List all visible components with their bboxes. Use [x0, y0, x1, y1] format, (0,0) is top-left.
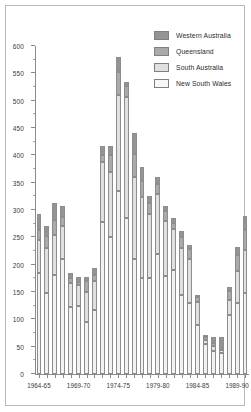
y-axis-minor-tick [33, 59, 35, 60]
y-axis-tick-label: 200 [13, 261, 24, 268]
bar-stack[interactable] [108, 146, 113, 375]
y-axis-minor-tick [33, 168, 35, 169]
bar-stack[interactable] [203, 335, 208, 374]
bar-segment [132, 177, 137, 259]
y-axis-minor-tick [33, 86, 35, 87]
y-axis-major-tick [31, 236, 35, 237]
x-axis-tick [79, 375, 80, 378]
y-axis-major-tick [31, 373, 35, 374]
bar-segment [227, 300, 232, 315]
bar-segment [116, 95, 121, 191]
bar-segment [100, 162, 105, 222]
chart-frame: Western AustraliaQueenslandSouth Austral… [5, 5, 245, 406]
bar-segment [195, 302, 200, 325]
legend-item-label: Western Australia [176, 32, 231, 39]
bar-segment [147, 278, 152, 374]
bar-segment [100, 155, 105, 162]
bar-segment [227, 287, 232, 291]
x-axis-tick-label: 1974-75 [106, 382, 129, 389]
bar-stack[interactable] [84, 277, 89, 374]
bar-segment [147, 214, 152, 279]
bar-segment [60, 226, 65, 259]
x-axis-tick [126, 375, 127, 378]
bar-stack[interactable] [140, 167, 145, 374]
bar-segment [155, 184, 160, 194]
y-axis-major-tick [31, 264, 35, 265]
bar-segment [187, 249, 192, 259]
bar-segment [84, 322, 89, 374]
bar-segment [171, 223, 176, 230]
x-axis-tick-label: 1979-80 [146, 382, 169, 389]
y-axis-minor-tick [33, 359, 35, 360]
bar-stack[interactable] [155, 177, 160, 374]
x-axis-tick [237, 375, 238, 378]
bar-segment [108, 172, 113, 238]
bar-segment [227, 315, 232, 374]
bar-stack[interactable] [60, 206, 65, 374]
bar-segment [147, 196, 152, 203]
bar-stack[interactable] [211, 337, 216, 374]
bar-segment [211, 346, 216, 351]
y-axis-tick-label: 400 [13, 152, 24, 159]
y-axis-tick-label: 450 [13, 125, 24, 132]
y-axis-tick-label: 500 [13, 97, 24, 104]
bar-stack[interactable] [52, 203, 57, 374]
bar-segment [76, 277, 81, 282]
bar-stack[interactable] [68, 273, 73, 374]
bar-segment [84, 292, 89, 322]
bar-stack[interactable] [171, 218, 176, 374]
bar-segment [52, 235, 57, 274]
bar-segment [219, 353, 224, 374]
bar-stack[interactable] [235, 247, 240, 374]
y-axis-major-tick [31, 318, 35, 319]
bar-stack[interactable] [227, 287, 232, 374]
bar-segment [108, 146, 113, 156]
bar-stack[interactable] [195, 295, 200, 374]
y-axis-tick-label: 150 [13, 289, 24, 296]
bar-segment [84, 277, 89, 281]
bar-segment [219, 337, 224, 348]
bar-segment [37, 230, 42, 240]
bar-segment [76, 306, 81, 374]
bar-stack[interactable] [147, 196, 152, 374]
bar-segment [116, 57, 121, 72]
bar-stack[interactable] [179, 231, 184, 374]
bar-stack[interactable] [163, 206, 168, 374]
bar-segment [219, 348, 224, 350]
bar-stack[interactable] [76, 277, 81, 374]
bar-segment [163, 211, 168, 221]
bar-stack[interactable] [124, 82, 129, 374]
bar-segment [171, 218, 176, 222]
bar-segment [179, 295, 184, 374]
x-axis-tick [166, 375, 167, 378]
bar-segment [44, 248, 49, 293]
y-axis-major-tick [31, 182, 35, 183]
bar-segment [227, 291, 232, 299]
bar-stack[interactable] [219, 337, 224, 374]
bar-segment [92, 275, 97, 282]
bar-segment [211, 351, 216, 374]
bar-stack[interactable] [116, 57, 121, 374]
bar-stack[interactable] [187, 245, 192, 374]
bar-segment [187, 245, 192, 249]
y-axis-minor-tick [33, 277, 35, 278]
legend-item[interactable]: Western Australia [154, 28, 250, 43]
x-axis-tick [221, 375, 222, 378]
bar-stack[interactable] [92, 268, 97, 374]
bar-segment [203, 337, 208, 339]
y-axis-minor-tick [33, 195, 35, 196]
x-axis-tick [47, 375, 48, 378]
y-axis-minor-tick [33, 332, 35, 333]
bar-stack[interactable] [132, 133, 137, 374]
bar-stack[interactable] [37, 214, 42, 374]
bar-segment [116, 191, 121, 374]
y-axis-tick-label: 100 [13, 316, 24, 323]
bar-stack[interactable] [100, 146, 105, 375]
bar-segment [235, 247, 240, 255]
bar-segment [179, 237, 184, 248]
bar-stack[interactable] [44, 226, 49, 374]
bar-segment [68, 278, 73, 282]
bar-stack[interactable] [243, 216, 248, 374]
bar-segment [235, 303, 240, 374]
bar-segment [243, 250, 248, 293]
